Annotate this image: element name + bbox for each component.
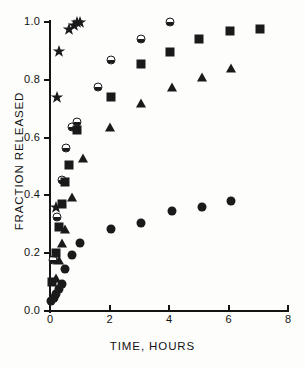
data-point-square	[72, 126, 81, 135]
x-tick-label: 8	[276, 314, 300, 325]
data-point-circle	[197, 202, 206, 211]
data-point-star	[73, 16, 86, 29]
y-tick-mark	[44, 137, 50, 139]
y-tick-label: 0.0	[0, 305, 40, 316]
x-tick-label: 0	[38, 314, 62, 325]
x-tick-mark	[287, 305, 289, 311]
data-point-circle	[136, 218, 145, 227]
data-point-circle	[68, 250, 77, 259]
y-tick-mark	[44, 79, 50, 81]
data-point-star	[52, 44, 65, 57]
data-point-square	[136, 59, 145, 68]
x-tick-label: 6	[217, 314, 241, 325]
plot-area	[50, 22, 288, 311]
data-point-star	[51, 91, 64, 104]
data-point-square	[106, 93, 115, 102]
x-axis-title: TIME, HOURS	[0, 340, 305, 352]
y-tick-mark	[44, 252, 50, 254]
x-tick-mark	[49, 305, 51, 311]
data-point-circle	[75, 239, 84, 248]
x-tick-mark	[228, 305, 230, 311]
data-point-square	[194, 35, 203, 44]
data-point-circle	[106, 224, 115, 233]
data-point-triangle	[78, 153, 88, 162]
data-point-half-circle	[62, 143, 71, 152]
chart-figure: 0.00.20.40.60.81.0 02468 TIME, HOURS FRA…	[0, 0, 305, 369]
data-point-half-circle	[106, 55, 115, 64]
x-tick-label: 4	[157, 314, 181, 325]
y-tick-mark	[44, 194, 50, 196]
data-point-half-circle	[166, 18, 175, 27]
data-point-circle	[60, 265, 69, 274]
data-point-triangle	[136, 98, 146, 107]
data-point-circle	[227, 197, 236, 206]
data-point-square	[225, 26, 234, 35]
x-tick-mark	[168, 305, 170, 311]
data-point-triangle	[67, 192, 77, 201]
data-point-triangle	[226, 64, 236, 73]
data-point-square	[57, 200, 66, 209]
data-point-half-circle	[136, 35, 145, 44]
data-point-half-circle	[93, 83, 102, 92]
data-point-circle	[57, 279, 66, 288]
data-point-triangle	[167, 83, 177, 92]
y-axis-title: FRACTION RELEASED	[13, 46, 25, 276]
data-point-half-circle	[53, 213, 62, 222]
data-point-square	[166, 48, 175, 57]
x-tick-label: 2	[98, 314, 122, 325]
data-point-triangle	[57, 239, 67, 248]
data-point-square	[65, 161, 74, 170]
data-point-triangle	[54, 256, 64, 265]
data-point-triangle	[105, 123, 115, 132]
data-point-square	[255, 25, 264, 34]
y-axis-line	[49, 20, 51, 313]
x-tick-mark	[109, 305, 111, 311]
data-point-triangle	[197, 72, 207, 81]
data-point-square	[60, 178, 69, 187]
data-point-triangle	[60, 224, 70, 233]
data-point-circle	[167, 207, 176, 216]
y-tick-label: 1.0	[0, 16, 40, 27]
data-point-half-circle	[72, 117, 81, 126]
y-tick-mark	[44, 21, 50, 23]
